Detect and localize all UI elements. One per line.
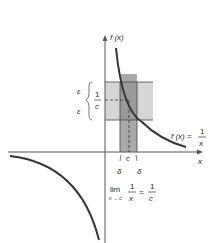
tick-c-label: c bbox=[126, 154, 130, 163]
limit-rhs-numerator: 1 bbox=[150, 182, 155, 191]
y-value-denominator: c bbox=[95, 102, 99, 111]
function-label-denominator: x bbox=[198, 139, 204, 148]
y-axis-label: f (x) bbox=[110, 33, 124, 42]
limit-equals: = bbox=[139, 188, 144, 197]
epsilon-lower-label: ε bbox=[77, 107, 81, 116]
limit-lhs-numerator: 1 bbox=[130, 182, 135, 191]
y-axis-arrow-icon bbox=[103, 35, 108, 41]
y-value-numerator: 1 bbox=[95, 90, 100, 99]
curve-left-branch bbox=[10, 156, 99, 240]
function-label-lhs: f (x) = bbox=[171, 132, 192, 141]
x-axis-label: x bbox=[197, 157, 203, 166]
tick-left bbox=[120, 155, 121, 161]
epsilon-delta-diagram: f (x) x ε ε 1 c f (x) = 1 x c δ δ lim x … bbox=[0, 0, 209, 243]
x-axis-arrow-icon bbox=[197, 150, 203, 155]
delta-right-label: δ bbox=[137, 167, 142, 176]
limit-subscript: x → c bbox=[108, 195, 122, 201]
tick-right bbox=[136, 155, 137, 161]
delta-left-label: δ bbox=[117, 167, 122, 176]
limit-lhs-denominator: x bbox=[128, 194, 134, 203]
function-label-numerator: 1 bbox=[200, 127, 205, 136]
epsilon-braces bbox=[86, 82, 92, 120]
limit-lim: lim bbox=[110, 185, 121, 194]
epsilon-upper-label: ε bbox=[77, 87, 81, 96]
limit-rhs-denominator: c bbox=[149, 194, 153, 203]
